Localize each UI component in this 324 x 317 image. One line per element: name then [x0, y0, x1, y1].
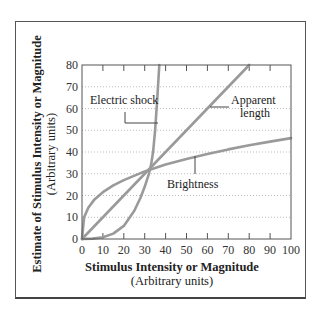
y-tick-label: 80 [66, 58, 78, 72]
electric-shock-curve [82, 65, 159, 239]
y-tick-label: 40 [66, 145, 78, 159]
x-tick-label: 20 [118, 243, 130, 257]
x-tick-label: 50 [181, 243, 193, 257]
y-tick-label: 10 [66, 210, 78, 224]
y-axis-subtitle: (Arbitrary units) [44, 113, 58, 195]
length-label: length [240, 106, 270, 120]
electric-shock-leader [125, 112, 158, 123]
axis-ticks: 010203040506070800102030405060708090100 [66, 58, 300, 257]
x-tick-label: 60 [201, 243, 213, 257]
y-tick-label: 30 [66, 167, 78, 181]
x-tick-label: 40 [160, 243, 172, 257]
x-tick-label: 10 [97, 243, 109, 257]
x-tick-label: 30 [139, 243, 151, 257]
y-tick-label: 60 [66, 102, 78, 116]
x-tick-label: 100 [282, 243, 300, 257]
x-tick-label: 80 [243, 243, 255, 257]
psychophysics-chart: 010203040506070800102030405060708090100 … [0, 0, 324, 317]
x-tick-label: 0 [79, 243, 85, 257]
x-axis-title: Stimulus Intensity or Magnitude [85, 260, 259, 274]
y-tick-label: 70 [66, 80, 78, 94]
y-axis-title: Estimate of Stimulus Intensity or Magnit… [30, 35, 44, 273]
y-tick-label: 20 [66, 189, 78, 203]
x-tick-label: 70 [222, 243, 234, 257]
apparent-label: Apparent [231, 93, 276, 107]
y-tick-label: 50 [66, 123, 78, 137]
y-tick-label: 0 [72, 232, 78, 246]
x-tick-label: 90 [264, 243, 276, 257]
apparent-length-curve [82, 65, 249, 239]
electric-shock-label: Electric shock [90, 93, 158, 107]
brightness-label: Brightness [167, 177, 219, 191]
x-axis-subtitle: (Arbitrary units) [131, 274, 213, 288]
